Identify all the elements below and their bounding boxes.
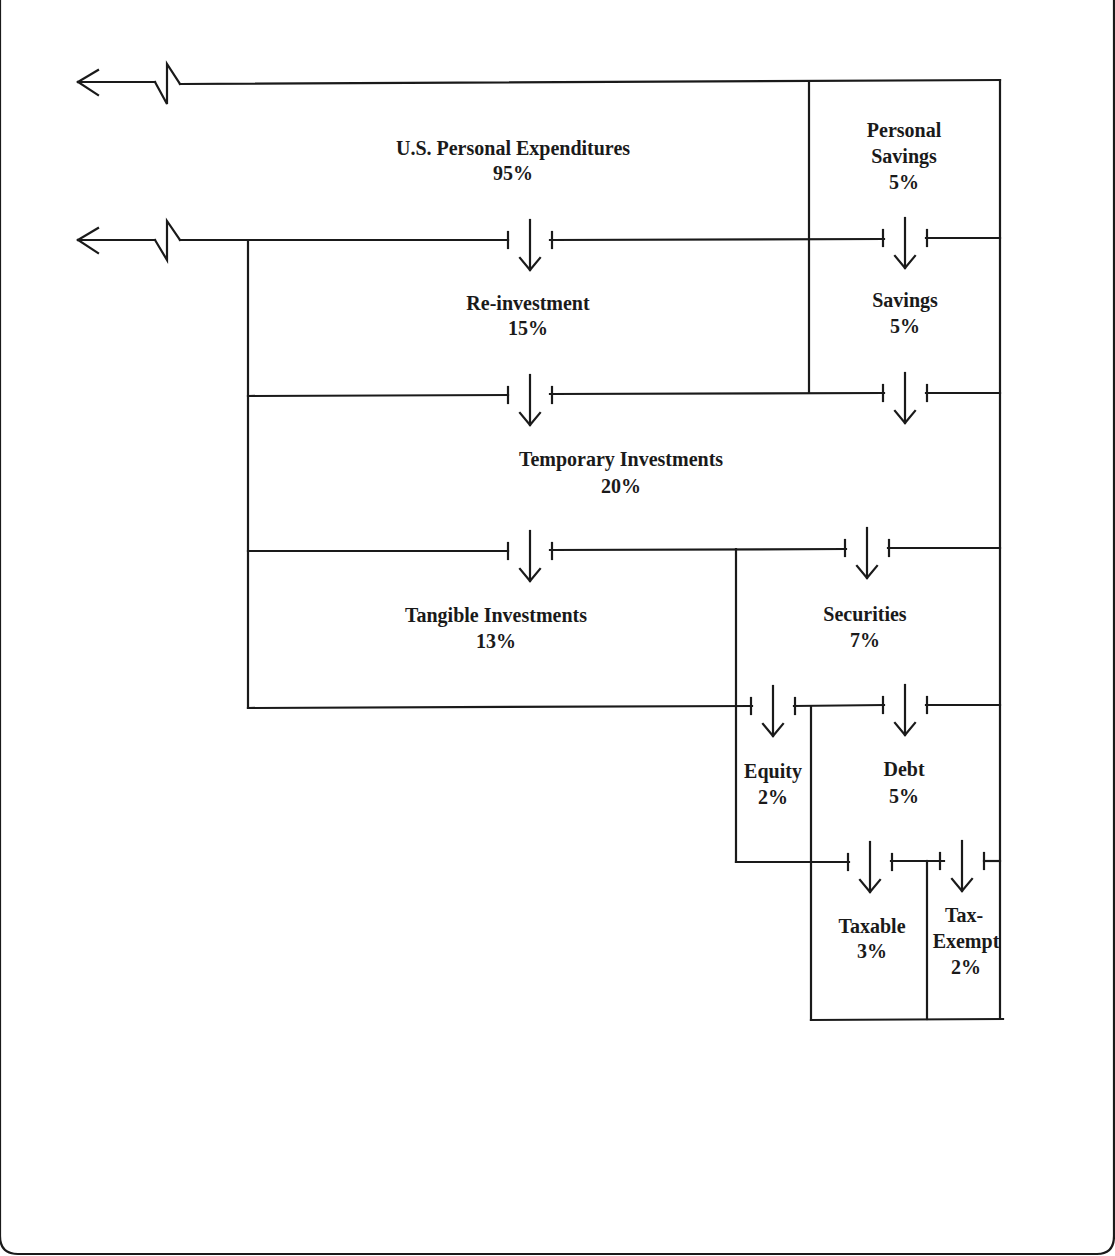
node-personal-savings-label-2: Savings [871,145,937,168]
node-tangible-label: Tangible Investments [405,604,587,627]
node-tax-exempt-label-2: Exempt [933,930,1000,953]
node-equity-label: Equity [744,760,802,783]
node-equity-value: 2% [758,786,788,808]
node-expenditures-label: U.S. Personal Expenditures [396,137,630,160]
page-border [0,0,1114,1254]
node-expenditures-value: 95% [493,162,533,184]
node-savings-label: Savings [872,289,938,312]
node-securities-label: Securities [823,603,907,625]
node-personal-savings-value: 5% [889,171,919,193]
node-savings-value: 5% [890,315,920,337]
node-temporary-label: Temporary Investments [519,448,723,471]
node-tax-exempt-value: 2% [951,956,981,978]
arrow-out-top [78,64,1000,104]
node-personal-savings-label-1: Personal [867,119,942,141]
arrow-out-second [78,221,508,260]
node-securities-value: 7% [850,629,880,651]
node-tax-exempt-label-1: Tax- [945,904,983,926]
node-taxable-value: 3% [857,940,887,962]
node-debt-value: 5% [889,785,919,807]
node-tangible-value: 13% [476,630,516,652]
flow-diagram: U.S. Personal Expenditures 95% Personal … [0,0,1115,1256]
node-reinvestment-label: Re-investment [466,292,590,314]
node-temporary-value: 20% [601,475,641,497]
node-reinvestment-value: 15% [508,317,548,339]
node-debt-label: Debt [883,758,924,780]
node-taxable-label: Taxable [838,915,905,937]
